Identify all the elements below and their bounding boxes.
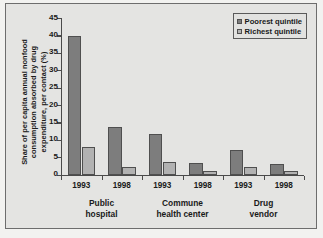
group-label-line-0: Drug [250, 198, 278, 209]
y-axis-title-line-3: expenditure, per contact (%) [39, 52, 49, 153]
y-tick-label: 25 [49, 82, 58, 91]
x-tick-mark [183, 176, 184, 180]
y-tick-label: 35 [49, 47, 58, 56]
bar-richest-3 [203, 171, 217, 174]
x-axis-year-label-0: 1993 [72, 181, 90, 190]
x-axis-year-label-2: 1993 [153, 181, 171, 190]
chart-screenshot: Share of per capita annual nonfood consu… [0, 0, 323, 238]
bar-poorest-0 [68, 36, 82, 175]
bar-poorest-5 [270, 164, 284, 174]
group-label-line-0: Public [85, 198, 117, 209]
x-axis-year-label-1: 1998 [113, 181, 131, 190]
x-axis-group-label-1: Communehealth center [156, 198, 208, 219]
group-label-line-1: health center [156, 209, 208, 220]
bar-richest-5 [284, 171, 298, 175]
legend-item-poorest[interactable]: Poorest quintile [237, 16, 302, 26]
x-tick-mark [304, 176, 305, 180]
y-tick-label: 45 [49, 13, 58, 22]
x-axis-year-label-5: 1998 [275, 181, 293, 190]
x-tick-mark [61, 176, 62, 180]
x-tick-mark [264, 176, 265, 180]
x-axis-group-label-2: Drugvendor [250, 198, 278, 219]
legend-swatch-icon-poorest [237, 19, 242, 24]
y-axis-line [61, 18, 62, 176]
plot-area: 051015202530354045 [61, 18, 304, 176]
x-axis-group-label-0: Publichospital [85, 198, 117, 219]
legend-swatch-icon-richest [237, 29, 242, 34]
legend-label-poorest: Poorest quintile [245, 17, 302, 26]
y-axis-title-line-2: consumption absorbed by drug [29, 46, 39, 158]
x-axis-year-label-3: 1998 [194, 181, 212, 190]
legend[interactable]: Poorest quintile Richest quintile [233, 13, 307, 39]
legend-item-richest[interactable]: Richest quintile [237, 26, 302, 36]
bar-poorest-2 [149, 134, 163, 175]
group-label-line-1: vendor [250, 209, 278, 220]
y-tick-label: 0 [54, 169, 58, 178]
x-axis-year-label-4: 1993 [234, 181, 252, 190]
bar-richest-2 [163, 162, 177, 175]
y-tick-label: 5 [54, 152, 58, 161]
x-tick-mark [223, 176, 224, 180]
figure-background: Share of per capita annual nonfood consu… [6, 4, 316, 228]
x-tick-mark [142, 176, 143, 180]
legend-label-richest: Richest quintile [245, 27, 302, 36]
bar-poorest-4 [230, 150, 244, 174]
y-tick-label: 40 [49, 30, 58, 39]
group-label-line-1: hospital [85, 209, 117, 220]
y-axis-title-line-1: Share of per capita annual nonfood [20, 39, 30, 165]
y-tick-label: 30 [49, 65, 58, 74]
bar-richest-0 [82, 147, 96, 175]
x-tick-mark [102, 176, 103, 180]
group-label-line-0: Commune [156, 198, 208, 209]
bar-richest-1 [122, 167, 136, 175]
figure-frame: Share of per capita annual nonfood consu… [5, 3, 317, 229]
bar-poorest-1 [108, 127, 122, 175]
y-tick-label: 20 [49, 100, 58, 109]
bar-richest-4 [244, 167, 258, 175]
y-tick-label: 10 [49, 134, 58, 143]
y-tick-label: 15 [49, 117, 58, 126]
bar-poorest-3 [189, 163, 203, 175]
